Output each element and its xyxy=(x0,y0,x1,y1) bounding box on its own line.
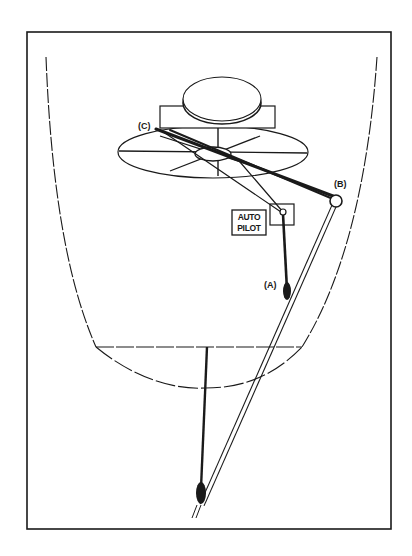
autopilot-linkage-figure: AUTO PILOT (C) (B) (A) xyxy=(0,0,412,556)
fitting-a xyxy=(283,282,291,300)
fitting-rudder-head xyxy=(196,482,206,504)
autopilot-label-line1: AUTO xyxy=(238,212,261,222)
diagram: AUTO PILOT (C) (B) (A) xyxy=(0,0,412,556)
autopilot-label: AUTO PILOT xyxy=(232,210,266,235)
autopilot-label-line2: PILOT xyxy=(237,223,262,233)
pulley-b-icon xyxy=(330,195,342,207)
compass-dome xyxy=(183,77,261,121)
label-a: (A) xyxy=(264,280,277,290)
autopilot-pivot xyxy=(280,209,286,215)
label-c: (C) xyxy=(138,121,151,131)
label-b: (B) xyxy=(334,179,347,189)
